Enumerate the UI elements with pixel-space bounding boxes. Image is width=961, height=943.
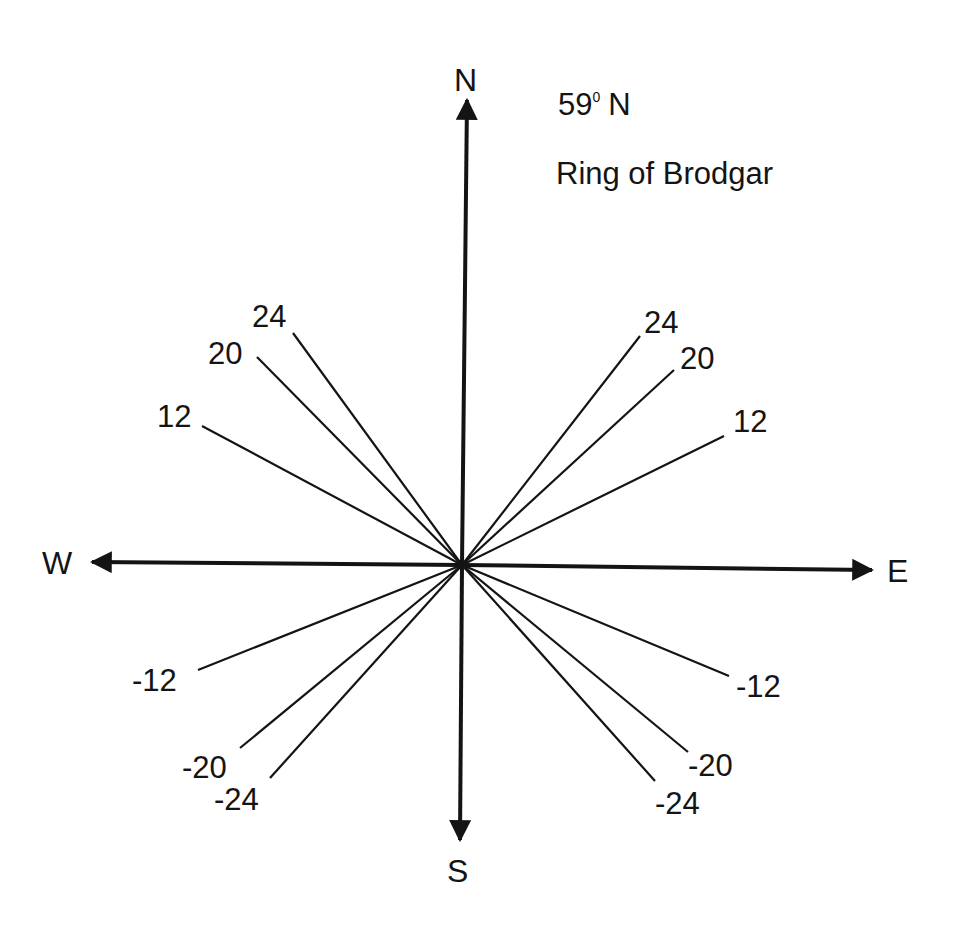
line-nw-20 — [257, 357, 462, 565]
west-label: W — [42, 545, 73, 581]
label-nw-20: 20 — [208, 336, 242, 371]
line-ne-20 — [462, 370, 674, 565]
north-axis-arrow — [462, 100, 467, 565]
label-sw-minus20: -20 — [182, 750, 227, 785]
site-label: Ring of Brodgar — [556, 156, 773, 191]
line-sw-minus20 — [240, 565, 462, 748]
label-ne-24: 24 — [644, 305, 678, 340]
label-ne-20: 20 — [680, 341, 714, 376]
line-sw-minus12 — [198, 565, 462, 670]
degree-symbol: 0 — [592, 89, 600, 105]
label-se-minus20: -20 — [688, 748, 733, 783]
west-axis-arrow — [92, 562, 462, 565]
latitude-value: 59 — [558, 87, 592, 122]
line-ne-12 — [462, 436, 724, 565]
label-ne-12: 12 — [733, 404, 767, 439]
line-se-minus24 — [462, 565, 655, 781]
compass-axes — [92, 100, 872, 840]
label-nw-24: 24 — [252, 299, 286, 334]
label-se-minus24: -24 — [655, 786, 700, 821]
north-label: N — [454, 62, 477, 98]
line-sw-minus24 — [270, 565, 462, 778]
line-se-minus20 — [462, 565, 688, 752]
line-ne-24 — [462, 336, 640, 565]
east-axis-arrow — [462, 565, 872, 570]
latitude-hemisphere: N — [608, 87, 630, 122]
east-label: E — [887, 553, 908, 589]
label-sw-minus12: -12 — [132, 663, 177, 698]
line-se-minus12 — [462, 565, 729, 676]
latitude-label: 590N — [558, 87, 631, 122]
south-axis-arrow — [460, 565, 462, 840]
line-nw-24 — [293, 333, 462, 565]
line-nw-12 — [202, 426, 462, 565]
label-sw-minus24: -24 — [214, 782, 259, 817]
label-nw-12: 12 — [157, 399, 191, 434]
south-label: S — [447, 853, 468, 889]
declination-compass-diagram: N S W E 590N Ring of Brodgar 24 20 12 24… — [0, 0, 961, 943]
center-point — [457, 560, 467, 570]
label-se-minus12: -12 — [736, 669, 781, 704]
